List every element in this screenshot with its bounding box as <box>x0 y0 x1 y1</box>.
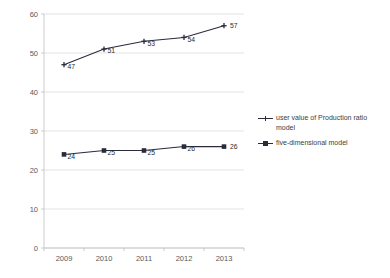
line-chart: 0102030405060 20092010201120122013 47515… <box>0 0 390 278</box>
data-point-label: 25 <box>148 149 156 156</box>
data-point-marker <box>142 148 147 153</box>
x-tick-label: 2012 <box>176 254 193 263</box>
data-point-label: 57 <box>230 22 238 29</box>
cross-line-marker-icon <box>258 114 273 123</box>
y-tick-label: 10 <box>30 205 38 214</box>
y-tick-label: 20 <box>30 166 38 175</box>
y-tick-label: 30 <box>30 127 38 136</box>
data-point-marker <box>102 148 107 153</box>
y-tick-label: 60 <box>30 10 38 19</box>
x-tick-label: 2010 <box>96 254 113 263</box>
legend-label-five-dimensional: five-dimensional model <box>276 138 388 148</box>
series-line-1 <box>64 26 224 65</box>
x-tick-label: 2011 <box>136 254 152 263</box>
data-point-label: 51 <box>108 47 116 54</box>
y-tick-label: 50 <box>30 49 38 58</box>
data-point-label: 47 <box>68 63 76 70</box>
data-series-layer <box>61 23 226 157</box>
data-point-label: 24 <box>68 153 76 160</box>
data-labels-layer: 47515354572425252626 <box>68 22 238 160</box>
data-point-label: 54 <box>188 36 196 43</box>
x-axis-ticks: 20092010201120122013 <box>44 248 244 263</box>
square-line-marker-icon <box>258 139 273 148</box>
y-axis-ticks: 0102030405060 <box>30 10 44 253</box>
data-point-marker <box>182 144 187 149</box>
x-tick-label: 2009 <box>56 254 73 263</box>
data-point-label: 26 <box>230 143 238 150</box>
chart-legend: user value of Production ratio model fiv… <box>258 113 388 153</box>
data-point-label: 25 <box>108 149 116 156</box>
legend-item-production-ratio[interactable]: user value of Production ratio model <box>258 113 388 133</box>
data-point-label: 26 <box>188 145 196 152</box>
legend-label-production-ratio: user value of Production ratio model <box>276 113 388 133</box>
data-point-marker <box>222 144 227 149</box>
y-tick-label: 0 <box>34 244 38 253</box>
data-point-label: 53 <box>148 40 156 47</box>
x-tick-label: 2013 <box>216 254 233 263</box>
legend-item-five-dimensional[interactable]: five-dimensional model <box>258 138 388 148</box>
data-point-marker <box>62 152 67 157</box>
gridlines <box>44 14 244 248</box>
y-tick-label: 40 <box>30 88 38 97</box>
